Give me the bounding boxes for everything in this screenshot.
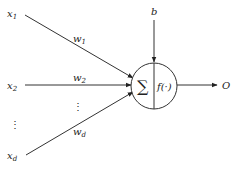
output-label: O (222, 80, 230, 91)
input-label-xd: xd (7, 150, 18, 163)
neuron-node: ∑ f(·) (131, 63, 177, 109)
perceptron-diagram: x1 x2 ⋮ xd w1 w2 ⋮ wd b ∑ f(·) O (0, 0, 238, 170)
input-ellipsis: ⋮ (10, 119, 20, 130)
sum-symbol: ∑ (137, 77, 149, 96)
weight-label-w2: w2 (73, 72, 87, 85)
bias-label: b (151, 6, 157, 17)
activation-function: f(·) (156, 81, 172, 92)
weight-ellipsis: ⋮ (73, 101, 83, 112)
edge-x1 (25, 15, 133, 78)
input-label-x1: x1 (7, 8, 17, 21)
weight-label-wd: wd (73, 126, 87, 139)
input-label-x2: x2 (7, 80, 18, 93)
